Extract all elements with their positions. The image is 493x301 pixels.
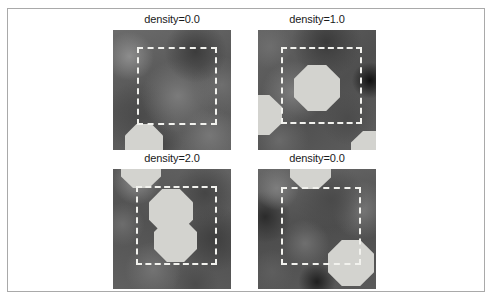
panel-grid: density=0.0 density=1.0 density=2.0 — [8, 9, 484, 291]
panel-density-2-0-bottom-left: density=2.0 — [109, 152, 235, 289]
panel-image — [258, 169, 376, 289]
panel-image — [113, 169, 231, 289]
roi-dashed-box — [281, 187, 361, 265]
figure-frame: density=0.0 density=1.0 density=2.0 — [7, 8, 485, 292]
panel-title: density=0.0 — [109, 13, 235, 26]
panel-image — [258, 30, 376, 150]
panel-density-1-0-top-right: density=1.0 — [254, 13, 380, 150]
panel-title: density=0.0 — [254, 152, 380, 165]
roi-dashed-box — [136, 186, 217, 265]
roi-dashed-box — [137, 47, 217, 125]
panel-title: density=1.0 — [254, 13, 380, 26]
panel-density-0-0-bottom-right: density=0.0 — [254, 152, 380, 289]
panel-density-0-0-top-left: density=0.0 — [109, 13, 235, 150]
panel-title: density=2.0 — [109, 152, 235, 165]
roi-dashed-box — [281, 47, 362, 124]
panel-image — [113, 30, 231, 150]
